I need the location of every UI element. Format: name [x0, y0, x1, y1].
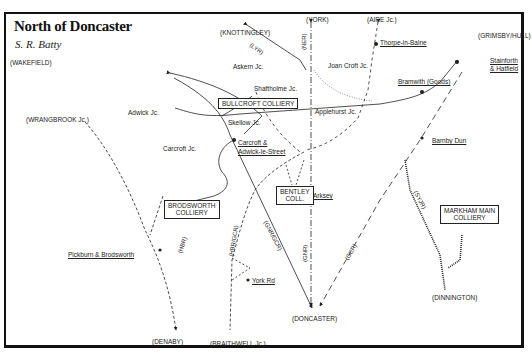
station-bramwith: Bramwith (Goods): [398, 79, 450, 86]
station-thorpe-in-balne: Thorpe-in-Balne: [380, 40, 427, 47]
dest-dinnington: (DINNINGTON): [432, 295, 477, 302]
junction-carcroft: Carcroft Jc.: [163, 146, 196, 153]
map-title: North of Doncaster: [14, 18, 132, 35]
dest-doncaster: (DONCASTER): [292, 316, 337, 323]
line-brodsworth-hbr: [150, 196, 163, 235]
station-pickburn: Pickburn & Brodsworth: [68, 252, 134, 259]
junction-askern: Askern Jc.: [233, 64, 263, 71]
station-stainforth-2: & Hatfield: [490, 66, 518, 73]
line-aire-applehurst: [305, 22, 378, 150]
dest-knottingley: (KNOTTINGLEY): [220, 30, 270, 37]
dest-grimsby-hull: (GRIMSBY/HULL): [478, 33, 531, 40]
line-markham-spur: [448, 235, 462, 268]
line-brodsworth-branch: [190, 140, 234, 202]
dest-wrangbrook-jc: (WRANGBROOK Jc.): [26, 117, 89, 124]
junction-joan-croft: Joan Croft Jc.: [328, 63, 368, 70]
company-gnr: (GNR): [302, 245, 308, 262]
station-barnby-dun: Barnby Dun: [432, 138, 466, 145]
junction-skellow: Skellow Jc.: [228, 120, 261, 127]
dest-braithwell-jc: (BRAITHWELL Jc.): [210, 341, 266, 348]
station-carcroft-adwick-2: Adwick-le-Street: [238, 149, 285, 156]
line-wrangbrook-denaby: [85, 122, 176, 330]
dest-wakefield: (WAKEFIELD): [10, 60, 52, 67]
colliery-markham-main: MARKHAM MAINCOLLIERY: [440, 205, 499, 224]
map-author: S. R. Batty: [15, 38, 61, 50]
station-stainforth-1: Stainforth: [490, 58, 518, 65]
station-carcroft-adwick-1: Carcroft &: [238, 140, 267, 147]
colliery-brodsworth: BRODSWORTHCOLLIERY: [164, 200, 220, 219]
colliery-bentley: BENTLEYCOLL.: [276, 186, 314, 205]
station-york-rd: York Rd: [252, 278, 275, 285]
station-arksey: Arksey: [313, 193, 333, 200]
junction-adwick: Adwick Jc.: [128, 110, 159, 117]
colliery-bullcroft: BULLCROFT COLLIERY: [218, 98, 298, 109]
dest-denaby: (DENABY): [152, 339, 183, 346]
line-hbr-gcr: [230, 152, 304, 330]
dest-aire-jc: (AIRE Jc.): [367, 17, 397, 24]
line-joan-croft-curve: [314, 70, 372, 101]
line-york-rd: [232, 258, 250, 280]
junction-applehurst: Applehurst Jc.: [315, 109, 356, 116]
junction-shaftholme: Shaftholme Jc.: [254, 86, 297, 93]
line-syjr: [405, 160, 445, 290]
company-ner: (NER): [301, 33, 307, 50]
line-bentley-branch: [286, 160, 304, 185]
dest-york: (YORK): [306, 17, 329, 24]
